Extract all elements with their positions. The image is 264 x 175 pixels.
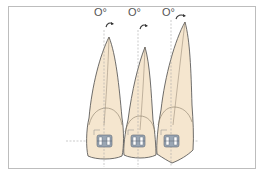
angle-label-1: O° [94,6,107,18]
tooth-lateral-incisor [124,24,156,167]
tooth-canine [157,14,194,167]
teeth-diagram [0,0,264,175]
angle-label-2: O° [128,6,141,18]
angle-label-3: O° [162,6,175,18]
tooth-central-incisor [87,22,124,167]
